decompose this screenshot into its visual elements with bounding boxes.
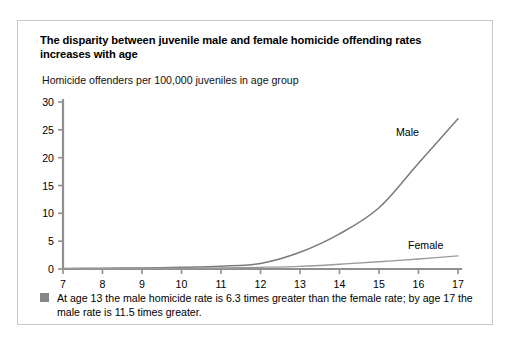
series-label-male: Male (396, 126, 419, 138)
x-axis-tick-label: 8 (100, 278, 106, 290)
x-axis-tick-label: 17 (452, 278, 464, 290)
y-axis-tick-label: 0 (18, 263, 54, 275)
y-axis-tick-label: 10 (18, 207, 54, 219)
x-axis-tick-label: 15 (373, 278, 385, 290)
x-axis-tick-label: 9 (139, 278, 145, 290)
footnote-bullet-icon (40, 293, 49, 302)
y-axis-tick-label: 25 (18, 124, 54, 136)
x-axis-tick-label: 10 (176, 278, 188, 290)
footnote-text: At age 13 the male homicide rate is 6.3 … (57, 291, 480, 319)
series-line-female (63, 256, 458, 269)
footnote: At age 13 the male homicide rate is 6.3 … (40, 291, 480, 319)
x-axis-tick-label: 12 (255, 278, 267, 290)
y-axis-tick-label: 15 (18, 180, 54, 192)
x-axis-tick-label: 11 (216, 278, 227, 290)
x-axis-tick-label: 16 (413, 278, 425, 290)
y-axis-tick-label: 20 (18, 152, 54, 164)
y-axis-tick-label: 5 (18, 235, 54, 247)
x-axis-tick-label: 14 (334, 278, 346, 290)
figure-panel: The disparity between juvenile male and … (17, 20, 493, 325)
series-label-female: Female (408, 239, 443, 251)
x-axis-tick-label: 13 (294, 278, 306, 290)
x-axis-tick-label: 7 (60, 278, 66, 290)
y-axis-tick-label: 30 (18, 96, 54, 108)
series-line-male (63, 119, 458, 269)
